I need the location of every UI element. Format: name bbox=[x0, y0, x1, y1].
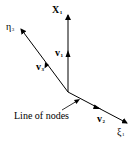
x1-axis-label: X1 bbox=[52, 5, 62, 15]
v2-label: v2 bbox=[97, 114, 105, 124]
line-of-nodes-label: Line of nodes bbox=[14, 111, 69, 121]
eta3-axis-label: η3 bbox=[6, 22, 14, 32]
pointer-arrowhead-icon bbox=[74, 99, 80, 104]
v3-label: v3 bbox=[36, 62, 44, 72]
diagram-canvas bbox=[0, 0, 136, 149]
v1-label: v1 bbox=[55, 48, 63, 58]
v2-arrowhead-icon bbox=[93, 105, 101, 110]
line-of-nodes-pointer bbox=[62, 101, 77, 110]
v1-arrowhead-icon bbox=[66, 50, 71, 57]
xi1-axis-label: ξ1 bbox=[117, 127, 124, 137]
eta3-axis-line bbox=[21, 29, 68, 92]
